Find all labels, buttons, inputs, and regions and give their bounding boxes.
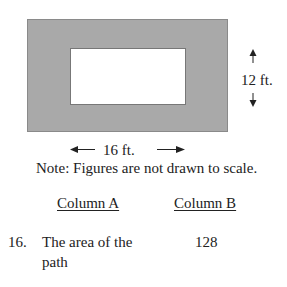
column-a-header: Column A [57, 196, 119, 211]
up-arrow-icon [250, 49, 257, 56]
column-b-value: 128 [195, 235, 218, 250]
column-a-value: The area of the [42, 235, 132, 250]
left-arrow-icon [70, 146, 78, 153]
question-number: 16. [8, 235, 27, 250]
scale-note: Note: Figures are not drawn to scale. [36, 161, 257, 176]
width-label: 16 ft. [103, 143, 135, 158]
height-label: 12 ft. [241, 73, 273, 88]
inner-rectangle [71, 49, 186, 105]
down-arrow-icon [250, 100, 257, 107]
right-arrow-icon [176, 146, 185, 153]
column-b-header: Column B [174, 196, 236, 211]
column-a-value-continued: path [42, 255, 68, 270]
